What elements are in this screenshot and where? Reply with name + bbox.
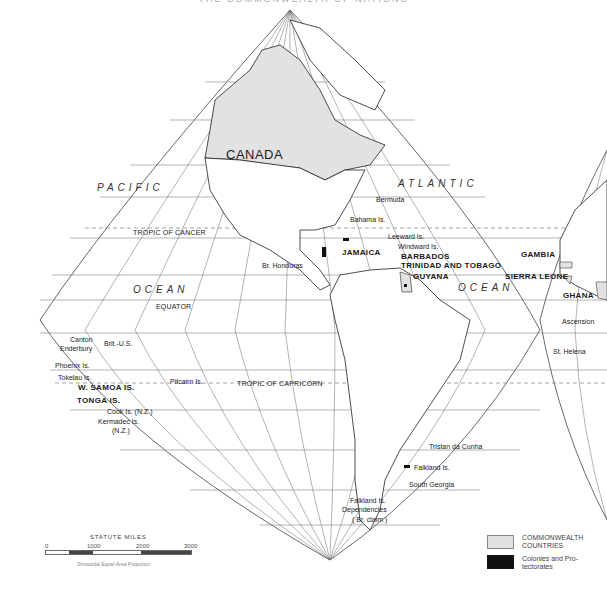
label-trinidad: TRINIDAD AND TOBAGO	[401, 262, 501, 270]
label-atlantic-ocean: OCEAN	[458, 283, 514, 293]
label-enderbury: Enderbury	[60, 345, 92, 352]
label-w-samoa: W. SAMOA IS.	[78, 384, 135, 392]
label-bermuda: Bermuda	[376, 196, 404, 203]
legend-label-line1: Colonies and Pro-	[522, 555, 578, 563]
label-tropic-of-capricorn: TROPIC OF CAPRICORN	[237, 380, 323, 387]
label-barbados: BARBADOS	[401, 253, 450, 261]
label-brit-us: Brit.-U.S.	[104, 340, 132, 347]
label-phoenix: Phoenix Is.	[55, 362, 90, 369]
label-leeward: Leeward Is.	[388, 233, 424, 240]
label-canada: CANADA	[226, 148, 283, 161]
label-jamaica: JAMAICA	[342, 249, 381, 257]
legend-swatch-colonies	[487, 555, 514, 569]
legend-label-line1: COMMONWEALTH	[522, 534, 583, 542]
scale-tick-2000: 2000	[136, 543, 149, 549]
label-falkland-dep-1: Falkland Is.	[350, 497, 386, 504]
legend-label-line2: tectorates	[522, 563, 578, 571]
label-tropic-of-cancer: TROPIC OF CANCER	[133, 229, 206, 236]
label-canton: Canton	[70, 336, 93, 343]
legend-label-line2: COUNTRIES	[522, 542, 583, 550]
scale-graphic	[45, 550, 193, 556]
legend-label-commonwealth: COMMONWEALTH COUNTRIES	[522, 534, 583, 550]
label-kermadec: Kermadec Is.	[98, 418, 139, 425]
label-pitcairn: Pitcairn Is.	[170, 378, 203, 385]
label-falkland-dep-3: ( Br. claim )	[352, 516, 387, 523]
scale-tick-1000: 1000	[87, 543, 100, 549]
label-cook: Cook Is. (N.Z.)	[107, 408, 153, 415]
label-atlantic: ATLANTIC	[398, 179, 478, 189]
label-kermadec-nz: (N.Z.)	[112, 427, 130, 434]
label-sierra-leone: SIERRA LEONE	[505, 273, 568, 281]
label-bahama: Bahama Is.	[350, 216, 385, 223]
label-south-georgia: South Georgia	[409, 481, 454, 488]
label-gambia: GAMBIA	[521, 251, 555, 259]
projection-note: Sinusoidal Equal-Area Projection	[77, 561, 150, 567]
label-pacific-ocean: OCEAN	[133, 285, 189, 295]
map-graticule	[0, 0, 607, 597]
scale-title: STATUTE MILES	[90, 534, 147, 540]
label-falkland: Falkland Is.	[414, 464, 450, 471]
label-ghana: GHANA	[563, 292, 594, 300]
label-tristan: Tristan da Cunha	[429, 443, 482, 450]
label-tokelau: Tokelau Is.	[58, 374, 91, 381]
label-equator: EQUATOR	[156, 303, 191, 310]
label-ascension: Ascension	[562, 318, 594, 325]
label-st-helena: St. Helena	[553, 348, 586, 355]
legend-label-colonies: Colonies and Pro- tectorates	[522, 555, 578, 571]
scale-tick-0: 0	[45, 543, 48, 549]
label-tonga: TONGA IS.	[77, 397, 120, 405]
label-pacific: PACIFIC	[97, 183, 164, 193]
label-guyana: GUYANA	[413, 273, 449, 281]
scale-tick-3000: 3000	[184, 543, 197, 549]
label-br-honduras: Br. Honduras	[262, 262, 303, 269]
legend-swatch-commonwealth	[487, 535, 514, 549]
label-windward: Windward Is.	[398, 243, 438, 250]
label-falkland-dep-2: Dependencies	[342, 506, 387, 513]
